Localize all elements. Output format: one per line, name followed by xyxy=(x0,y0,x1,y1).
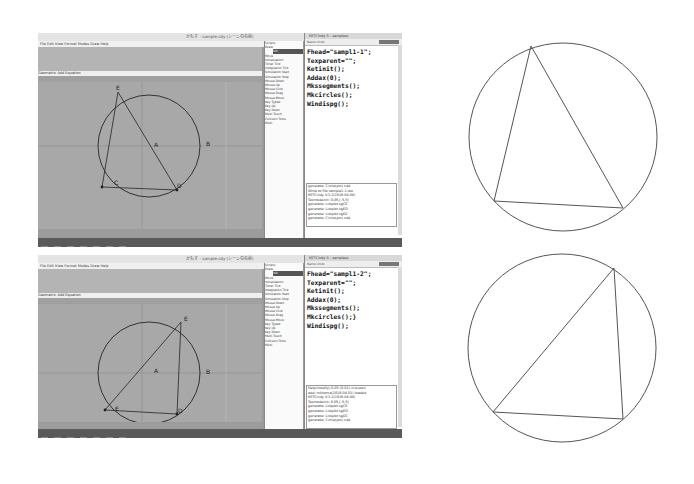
start-icon[interactable] xyxy=(41,437,48,439)
explorer-icon[interactable] xyxy=(80,437,87,439)
toolbar-row-1[interactable] xyxy=(38,47,262,55)
code-line[interactable]: Ketinit(); xyxy=(307,287,402,296)
script-tree[interactable]: Scripts Draw Init Move Initialization Ti… xyxy=(264,263,303,429)
point-label-e[interactable]: E xyxy=(184,315,188,322)
code-line[interactable]: Mkssegments(); xyxy=(307,304,402,313)
app-icon[interactable] xyxy=(93,437,100,439)
editor-scrollbar[interactable] xyxy=(398,267,402,427)
cinderella-icon[interactable] xyxy=(106,246,113,248)
terminal-icon[interactable] xyxy=(67,246,74,248)
construction-drawing xyxy=(38,304,262,422)
cinderella-icon[interactable] xyxy=(106,437,113,439)
editor-scrollbar[interactable] xyxy=(398,45,402,235)
editor-toolbar-label: Name Undo xyxy=(307,40,325,44)
code-line[interactable]: Mkssegments(); xyxy=(307,82,402,91)
circle-triangle-figure xyxy=(455,33,669,247)
code-line[interactable]: Ketinit(); xyxy=(307,65,402,74)
code-line[interactable]: Fhead="sampl1-2"; xyxy=(307,270,402,279)
editor-toolbar: Name Undo xyxy=(305,39,402,46)
script-tree[interactable]: Scripts Draw Init Move Initialization Ti… xyxy=(264,41,303,238)
editor-toolbar: Name Undo xyxy=(305,261,402,268)
geometry-canvas[interactable]: E A B E D xyxy=(38,304,262,422)
point-label-c[interactable]: E xyxy=(115,405,119,412)
toolbar-row-1[interactable] xyxy=(38,269,262,277)
explorer-icon[interactable] xyxy=(80,246,87,248)
toolbar-row-3[interactable] xyxy=(38,285,262,293)
code-line[interactable]: Texparent=""; xyxy=(307,279,402,288)
console-output: generate: Circle(pts) cdd Write to file … xyxy=(306,183,397,227)
point-label-b[interactable]: B xyxy=(206,140,210,147)
terminal-icon[interactable] xyxy=(67,437,74,439)
point-label-e[interactable]: E xyxy=(116,84,120,91)
code-line[interactable]: Mkcircles();} xyxy=(307,313,402,322)
window-title: かもす - sample.cdy (シーンの名前) xyxy=(186,34,253,39)
bottom-toolbar[interactable] xyxy=(38,422,262,429)
code-area[interactable]: Fhead="sampl1-1"; Texparent=""; Ketinit(… xyxy=(305,46,402,108)
point-label-d[interactable]: D xyxy=(177,182,182,189)
code-line[interactable]: Mkcircles(); xyxy=(307,91,402,100)
bottom-toolbar[interactable] xyxy=(38,229,262,236)
code-line[interactable]: Windispg(); xyxy=(307,322,402,331)
circle-triangle-figure xyxy=(455,253,669,467)
code-line[interactable]: Addax(0); xyxy=(307,74,402,83)
editor-icon[interactable] xyxy=(119,437,126,439)
toolbar-row-3[interactable] xyxy=(38,63,262,71)
geometry-canvas[interactable]: E A B C D xyxy=(38,82,262,229)
toolbar-row-2[interactable] xyxy=(38,277,262,285)
browser-icon[interactable] xyxy=(54,246,61,248)
point-label-a[interactable]: A xyxy=(154,141,158,148)
editor-buttons[interactable] xyxy=(379,40,399,44)
editor-icon[interactable] xyxy=(119,246,126,248)
code-line[interactable]: Addax(0); xyxy=(307,296,402,305)
taskbar xyxy=(38,429,402,438)
code-area[interactable]: Fhead="sampl1-2"; Texparent=""; Ketinit(… xyxy=(305,268,402,330)
point-label-d[interactable]: D xyxy=(178,407,183,414)
editor-buttons[interactable] xyxy=(379,262,399,266)
browser-icon[interactable] xyxy=(54,437,61,439)
editor-toolbar-label: Name Undo xyxy=(307,262,325,266)
tree-item[interactable]: Multi xyxy=(265,121,303,125)
toolbar-row-2[interactable] xyxy=(38,55,262,63)
code-line[interactable]: Fhead="sampl1-1"; xyxy=(307,48,402,57)
start-icon[interactable] xyxy=(41,246,48,248)
point-label-b[interactable]: B xyxy=(206,368,210,375)
script-editor: KETCindy 5 - samplesc Name Undo Fhead="s… xyxy=(304,33,402,238)
app-icon[interactable] xyxy=(93,246,100,248)
code-line[interactable]: Windispg(); xyxy=(307,100,402,109)
screenshot-top: かもす - sample.cdy (シーンの名前) File Edit View… xyxy=(38,33,402,247)
construction-drawing xyxy=(38,82,262,229)
point-label-a[interactable]: A xyxy=(154,367,158,374)
point-label-c[interactable]: C xyxy=(114,179,118,186)
console-line: generate: Circle(pts) cdd xyxy=(308,418,396,423)
screenshot-bottom: かもす - sample.cdy (シーンの名前) File Edit View… xyxy=(38,255,402,438)
window-title: かもす - sample.cdy (シーンの名前) xyxy=(186,256,253,261)
tree-item[interactable]: Multi xyxy=(265,343,303,347)
script-editor: KETCindy 5 - samplesc Name Undo Fhead="s… xyxy=(304,255,402,429)
taskbar xyxy=(38,238,402,247)
output-figure-top xyxy=(455,33,669,247)
console-output: Help(modify) 0.05 (0.01) in-buson add: m… xyxy=(306,385,397,429)
output-figure-bottom xyxy=(455,253,669,467)
console-line: generate: Circle(pts) cdd xyxy=(308,216,396,221)
code-line[interactable]: Texparent=""; xyxy=(307,57,402,66)
